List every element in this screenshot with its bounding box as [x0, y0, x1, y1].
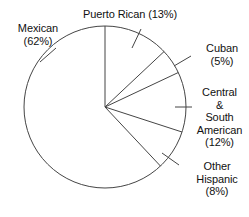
- slice-label-other-hispanic: Other Hispanic (8%): [185, 160, 249, 198]
- pie-chart-figure: Mexican (62%) Puerto Rican (13%) Cuban (…: [0, 0, 249, 217]
- leader-tick-cuban: [174, 56, 191, 66]
- slice-label-mexican: Mexican (62%): [6, 22, 70, 47]
- slice-label-puerto-rican: Puerto Rican (13%): [72, 8, 188, 21]
- slice-label-cuban: Cuban (5%): [196, 42, 248, 67]
- slice-label-central-south-american: Central & South American (12%): [190, 86, 249, 149]
